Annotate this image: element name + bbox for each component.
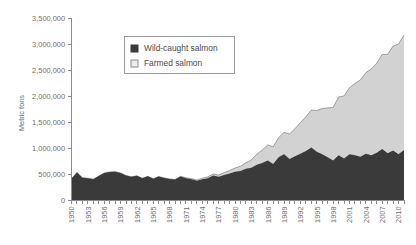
x-tick-label: 1968 — [165, 207, 174, 223]
x-tick-label: 1980 — [231, 207, 240, 223]
x-tick-label: 1953 — [84, 207, 93, 223]
legend-label-farmed-salmon: Farmed salmon — [144, 58, 203, 68]
x-tick-label: 2004 — [362, 207, 371, 223]
y-tick-label: 3,000,000 — [32, 40, 65, 49]
x-tick-label: 1965 — [149, 207, 158, 223]
x-tick-label: 1995 — [313, 207, 322, 223]
salmon-production-area-chart: 0500,0001,000,0001,500,0002,000,0002,500… — [0, 0, 416, 245]
legend-swatch-farmed-salmon — [131, 60, 138, 67]
chart-legend: Wild-caught salmon Farmed salmon — [125, 37, 235, 74]
x-tick-label: 1986 — [264, 207, 273, 223]
y-tick-label: 2,000,000 — [32, 92, 65, 101]
x-tick-label: 1977 — [214, 207, 223, 223]
x-tick-label: 1950 — [67, 207, 76, 223]
y-tick-label: 1,500,000 — [32, 118, 65, 127]
x-tick-label: 1998 — [329, 207, 338, 223]
x-tick-label: 1962 — [133, 207, 142, 223]
x-tick-label: 1959 — [116, 207, 125, 223]
legend-swatch-wild-caught-salmon — [131, 45, 138, 52]
y-tick-label: 0 — [61, 196, 65, 205]
x-tick-label: 2010 — [394, 207, 403, 223]
y-tick-label: 1,000,000 — [32, 144, 65, 153]
y-tick-label: 2,500,000 — [32, 66, 65, 75]
y-tick-label: 3,500,000 — [32, 14, 65, 23]
legend-label-wild-caught-salmon: Wild-caught salmon — [144, 43, 218, 53]
x-tick-label: 2007 — [378, 207, 387, 223]
x-tick-label: 1956 — [100, 207, 109, 223]
x-tick-label: 1989 — [280, 207, 289, 223]
y-tick-label: 500,000 — [38, 170, 65, 179]
x-tick-label: 2001 — [345, 207, 354, 223]
x-tick-label: 1971 — [182, 207, 191, 223]
chart-page: 0500,0001,000,0001,500,0002,000,0002,500… — [0, 0, 416, 245]
x-tick-label: 1992 — [296, 207, 305, 223]
x-tick-label: 1983 — [247, 207, 256, 223]
y-axis-title: Metric tons — [17, 95, 26, 131]
x-tick-label: 1974 — [198, 207, 207, 223]
